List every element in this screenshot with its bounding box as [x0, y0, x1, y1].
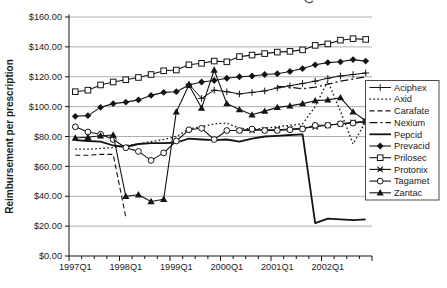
- x-tick-label: 2002Q1: [311, 262, 344, 272]
- series-nexium: [277, 77, 365, 89]
- legend-label-pepcid: Pepcid: [394, 130, 422, 140]
- series-line-pepcid: [75, 134, 365, 223]
- x-tick-label: 1997Q1: [59, 262, 92, 272]
- x-tick-label: 1998Q1: [109, 262, 142, 272]
- y-tick-label: $100.00: [29, 102, 62, 112]
- legend: AciphexAxidCarafateNexiumPepcidPrevacidP…: [366, 81, 440, 201]
- x-tick-label: 1999Q1: [160, 262, 193, 272]
- series-line-tagamet: [75, 122, 365, 161]
- y-tick-label: $160.00: [29, 12, 62, 22]
- x-tick-labels: 1997Q11998Q11999Q12000Q12001Q12002Q1: [59, 262, 344, 272]
- y-tick-label: $40.00: [34, 191, 62, 201]
- legend-label-prilosec: Prilosec: [394, 153, 427, 163]
- y-tick-label: $60.00: [34, 162, 62, 172]
- legend-label-carafate: Carafate: [394, 106, 429, 116]
- legend-label-axid: Axid: [394, 94, 412, 104]
- chart-figure: Reimbursement per prescription $0.00$20.…: [0, 0, 447, 288]
- series-line-carafate: [75, 154, 126, 217]
- y-tick-labels: $0.00$20.00$40.00$60.00$80.00$100.00$120…: [29, 12, 62, 261]
- x-tick-label: 2000Q1: [210, 262, 243, 272]
- y-tick-label: $0.00: [39, 251, 62, 261]
- series-line-nexium: [277, 77, 365, 89]
- legend-label-nexium: Nexium: [394, 118, 425, 128]
- chart-generated: $0.00$20.00$40.00$60.00$80.00$100.00$120…: [29, 12, 439, 271]
- cropped-title-fragment: [305, 0, 313, 3]
- series-carafate: [75, 154, 126, 217]
- legend-label-zantac: Zantac: [394, 188, 422, 198]
- legend-label-protonix: Protonix: [394, 165, 428, 175]
- x-tick-label: 2001Q1: [261, 262, 294, 272]
- y-tick-label: $120.00: [29, 72, 62, 82]
- chart-svg: Reimbursement per prescription $0.00$20.…: [0, 0, 447, 288]
- legend-label-aciphex: Aciphex: [394, 83, 427, 93]
- y-gridlines: [69, 17, 372, 226]
- series-pepcid: [75, 134, 365, 223]
- y-tick-label: $20.00: [34, 221, 62, 231]
- legend-label-tagamet: Tagamet: [394, 176, 430, 186]
- y-axis-title: Reimbursement per prescription: [4, 59, 15, 213]
- y-tick-label: $80.00: [34, 132, 62, 142]
- series-tagamet: [72, 119, 368, 164]
- legend-label-prevacid: Prevacid: [394, 141, 430, 151]
- y-tick-label: $140.00: [29, 42, 62, 52]
